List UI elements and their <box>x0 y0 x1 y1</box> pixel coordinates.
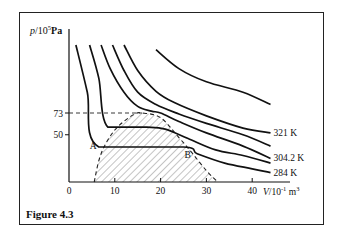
point-label-a: A <box>90 141 97 151</box>
isotherm-label: 321 K <box>274 128 298 138</box>
point-label-b: B <box>185 150 191 160</box>
y-tick-label: 50 <box>54 130 64 140</box>
y-axis-label: p/105Pa <box>29 24 62 36</box>
x-tick-label: 30 <box>202 186 212 196</box>
isotherm-label: 304.2 K <box>274 153 305 163</box>
pv-diagram: 0102030405073p/105PaV/10-1 m3 321 K304.2… <box>0 0 339 230</box>
x-tick-label: 0 <box>67 186 72 196</box>
isotherm-curve <box>156 50 271 105</box>
isotherm-label: 284 K <box>274 168 298 178</box>
y-tick-label: 73 <box>54 109 64 119</box>
x-tick-label: 10 <box>110 186 120 196</box>
x-axis-label: V/10-1 m3 <box>263 185 299 197</box>
figure-caption: Figure 4.3 <box>26 208 73 220</box>
x-tick-label: 40 <box>247 186 257 196</box>
x-tick-label: 20 <box>156 186 166 196</box>
